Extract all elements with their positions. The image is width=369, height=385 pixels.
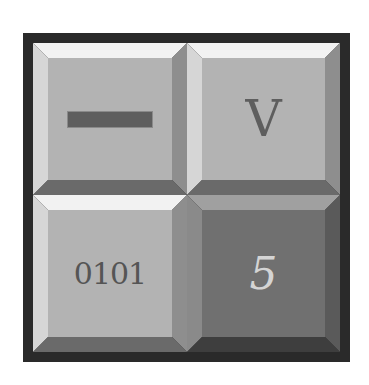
keypad-frame: V 0101 5 xyxy=(23,33,350,362)
key-face: 0101 xyxy=(48,210,172,337)
binary-key-label: 0101 xyxy=(74,259,146,289)
five-key[interactable]: 5 xyxy=(187,195,340,352)
v-key[interactable]: V xyxy=(187,43,340,195)
binary-key[interactable]: 0101 xyxy=(33,195,187,352)
minus-key[interactable] xyxy=(33,43,187,195)
key-face: 5 xyxy=(202,210,325,337)
v-key-label: V xyxy=(245,94,281,144)
key-face xyxy=(48,58,172,180)
five-key-label: 5 xyxy=(250,252,278,296)
minus-icon xyxy=(68,112,152,127)
key-face: V xyxy=(202,58,325,180)
